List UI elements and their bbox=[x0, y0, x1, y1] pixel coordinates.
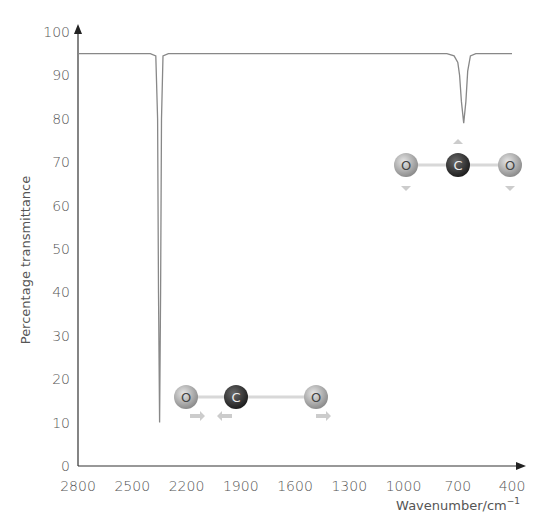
x-tick-label: 2800 bbox=[60, 478, 96, 494]
x-tick-label: 400 bbox=[499, 478, 526, 494]
svg-text:O: O bbox=[505, 158, 515, 173]
y-tick-label: 70 bbox=[52, 154, 70, 170]
y-tick-label: 80 bbox=[52, 111, 70, 127]
molecule-bend: O C O bbox=[394, 139, 522, 191]
y-axis-label: Percentage transmittance bbox=[18, 176, 33, 345]
x-tick-label: 700 bbox=[444, 478, 471, 494]
spectrum-line bbox=[78, 54, 512, 423]
y-tick-label: 30 bbox=[52, 328, 70, 344]
x-tick-label: 1000 bbox=[386, 478, 422, 494]
y-tick-label: 90 bbox=[52, 67, 70, 83]
arrow-right-icon bbox=[190, 411, 205, 421]
x-tick-label: 2200 bbox=[169, 478, 205, 494]
arrow-left-icon bbox=[217, 411, 232, 421]
axes bbox=[74, 24, 526, 470]
arrow-down-icon bbox=[505, 186, 515, 191]
y-tick-label: 0 bbox=[61, 458, 70, 474]
svg-text:O: O bbox=[401, 158, 411, 173]
svg-text:O: O bbox=[181, 390, 191, 405]
y-tick-label: 10 bbox=[52, 415, 70, 431]
y-axis-ticks: 0102030405060708090100 bbox=[43, 24, 70, 474]
x-tick-label: 1900 bbox=[223, 478, 259, 494]
arrow-up-icon bbox=[453, 139, 463, 144]
svg-text:O: O bbox=[311, 390, 321, 405]
ir-spectrum-chart: Percentage transmittance 010203040506070… bbox=[0, 0, 557, 516]
x-axis-arrow-icon bbox=[516, 462, 526, 470]
y-tick-label: 40 bbox=[52, 284, 70, 300]
y-tick-label: 100 bbox=[43, 24, 70, 40]
x-tick-label: 1300 bbox=[331, 478, 367, 494]
svg-text:C: C bbox=[231, 390, 240, 405]
y-axis-arrow-icon bbox=[74, 24, 82, 34]
svg-text:C: C bbox=[453, 158, 462, 173]
arrow-right-icon bbox=[316, 411, 331, 421]
x-axis-ticks: 2800250022001900160013001000700400 bbox=[60, 478, 525, 494]
arrow-down-icon bbox=[401, 186, 411, 191]
y-tick-label: 20 bbox=[52, 371, 70, 387]
x-tick-label: 1600 bbox=[277, 478, 313, 494]
x-tick-label: 2500 bbox=[114, 478, 150, 494]
molecule-stretch: O C O bbox=[174, 385, 331, 421]
y-tick-label: 50 bbox=[52, 241, 70, 257]
x-axis-label: Wavenumber/cm−1 bbox=[396, 496, 520, 513]
y-tick-label: 60 bbox=[52, 198, 70, 214]
